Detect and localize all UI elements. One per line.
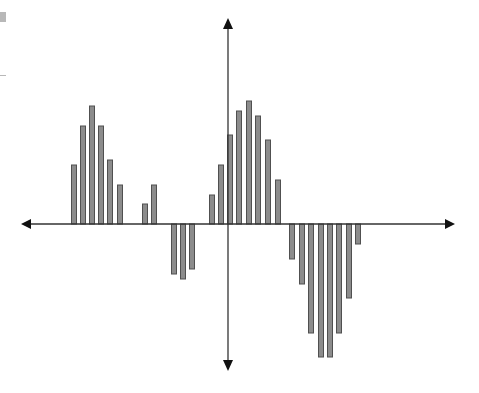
bar xyxy=(337,224,342,333)
arrow-down-icon xyxy=(223,360,233,371)
bar xyxy=(118,185,123,224)
bar xyxy=(309,224,314,333)
bar xyxy=(152,185,157,224)
bar xyxy=(247,101,252,224)
bar xyxy=(190,224,195,269)
bar xyxy=(356,224,361,244)
bar-chart xyxy=(0,0,479,393)
bar xyxy=(108,160,113,224)
bar xyxy=(276,180,281,224)
arrow-left-icon xyxy=(21,219,31,229)
bar xyxy=(72,165,77,224)
bar xyxy=(347,224,352,298)
bar xyxy=(81,126,86,224)
bar xyxy=(219,165,224,224)
arrow-right-icon xyxy=(445,219,455,229)
bar xyxy=(328,224,333,357)
bar xyxy=(99,126,104,224)
bar xyxy=(300,224,305,284)
bar xyxy=(237,111,242,224)
bar-series xyxy=(72,101,361,357)
bar xyxy=(172,224,177,274)
bar xyxy=(181,224,186,279)
bar xyxy=(256,116,261,224)
bar xyxy=(210,195,215,224)
bar xyxy=(319,224,324,357)
bar xyxy=(266,140,271,224)
bar xyxy=(143,204,148,224)
arrow-up-icon xyxy=(223,18,233,29)
bar xyxy=(290,224,295,259)
bar xyxy=(90,106,95,224)
